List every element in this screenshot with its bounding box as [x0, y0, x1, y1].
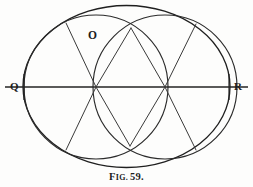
geometric-figure-drawing: [0, 0, 253, 187]
chord-left-lower-left: [66, 87, 96, 150]
label-O: O: [88, 30, 97, 42]
label-R: R: [234, 81, 242, 92]
figure-caption: FIG.59.: [0, 166, 253, 184]
chord-right-upper-right: [165, 24, 196, 87]
caption-number: 59.: [130, 171, 144, 182]
figure-container: Q R O FIG.59.: [0, 0, 253, 187]
label-Q: Q: [10, 81, 19, 92]
caption-prefix-rest: IG.: [116, 173, 128, 182]
chord-right-lower-right: [165, 87, 196, 150]
caption-prefix-initial: F: [109, 171, 116, 182]
